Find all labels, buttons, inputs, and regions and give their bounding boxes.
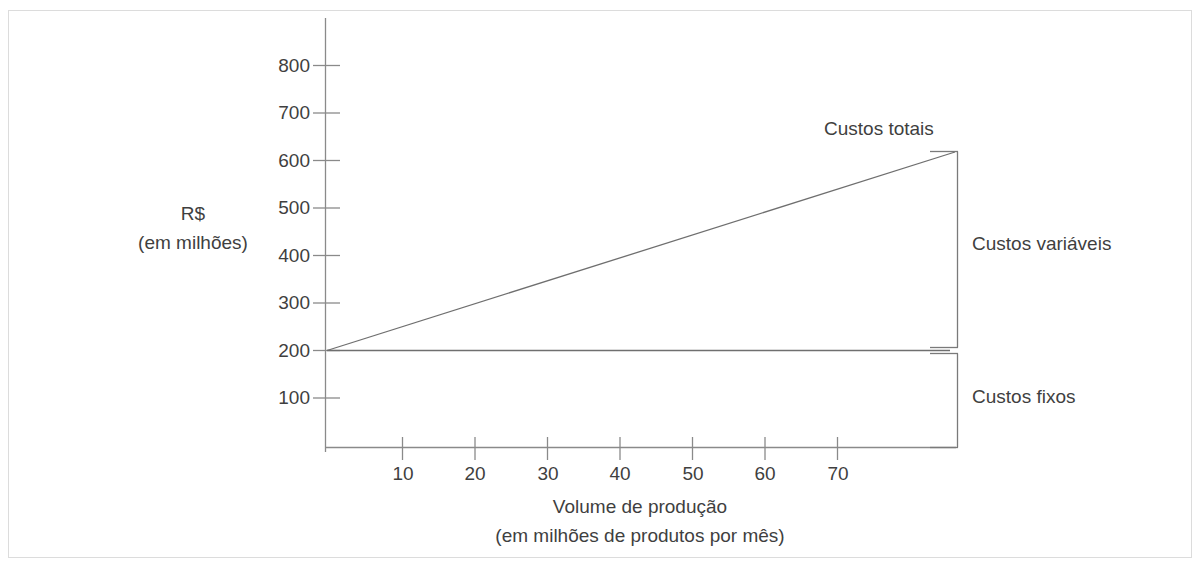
chart-page: 800 700 600 500 400 300 200 100 10 20 30… [0, 0, 1202, 569]
y-tick-label: 700 [250, 102, 310, 124]
y-tick-label: 600 [250, 150, 310, 172]
series-label-custos-totais: Custos totais [824, 118, 934, 140]
series-line-custos-totais [327, 152, 955, 351]
x-tick-label: 60 [742, 463, 788, 485]
y-tick-label: 200 [250, 340, 310, 362]
x-tick-label: 40 [597, 463, 643, 485]
y-axis-title-line2: (em milhões) [118, 232, 268, 254]
bracket-label-custos-fixos: Custos fixos [972, 386, 1075, 408]
y-tick-label: 800 [250, 55, 310, 77]
y-tick-label: 100 [250, 387, 310, 409]
x-tick-marks [403, 437, 838, 460]
y-tick-label: 300 [250, 292, 310, 314]
x-tick-label: 50 [670, 463, 716, 485]
y-axis-title-line1: R$ [118, 203, 268, 225]
x-axis-title-line2: (em milhões de produtos por mês) [450, 525, 830, 547]
bracket-custos-fixos [930, 354, 958, 448]
x-tick-label: 30 [525, 463, 571, 485]
x-tick-label: 70 [815, 463, 861, 485]
x-axis-title-line1: Volume de produção [475, 496, 805, 518]
bracket-custos-variaveis [930, 152, 958, 348]
x-tick-label: 20 [452, 463, 498, 485]
bracket-label-custos-variaveis: Custos variáveis [972, 233, 1111, 255]
x-tick-label: 10 [380, 463, 426, 485]
